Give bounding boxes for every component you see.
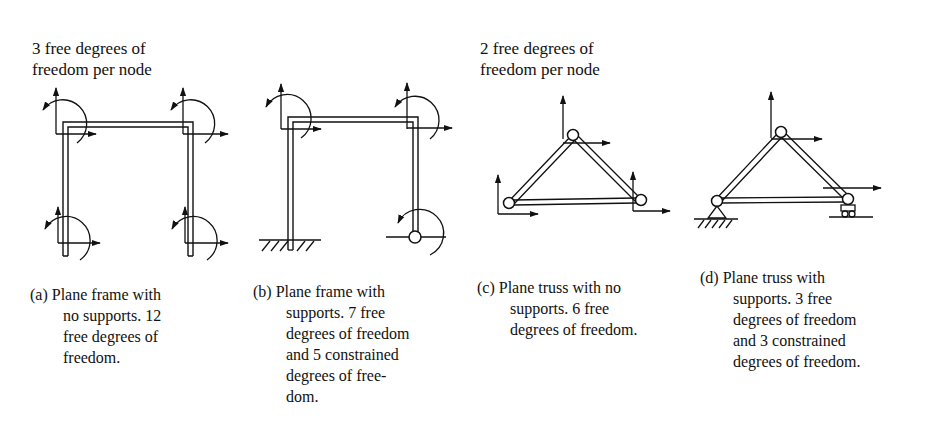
caption-d-line4: and 3 constrained (700, 330, 861, 351)
caption-c-line3: degrees of freedom. (477, 319, 638, 340)
caption-b-line5: degrees of free- (253, 365, 410, 386)
caption-b-line3: degrees of freedom (253, 323, 410, 344)
caption-c-line2: supports. 6 free (477, 298, 638, 319)
caption-c: (c) Plane truss with no supports. 6 free… (477, 277, 638, 340)
hinge-node-icon (712, 196, 723, 207)
caption-d-line2: supports. 3 free (700, 288, 861, 309)
caption-d-line3: degrees of freedom (700, 309, 861, 330)
pinned-support-icon (694, 206, 738, 228)
hinge-node-icon (504, 198, 515, 209)
dof-arrows-icon (498, 175, 538, 214)
panel-a-frame (43, 88, 228, 260)
hinge-node-icon (843, 194, 854, 205)
dof-arrows-icon (172, 207, 228, 260)
pin-support-icon (386, 231, 446, 243)
caption-a-line1: (a) Plane frame with (30, 284, 161, 305)
dof-arrows-icon (45, 207, 100, 260)
structures-diagram (0, 0, 927, 448)
dof-arrows-icon (171, 88, 228, 143)
hinge-node-icon (776, 127, 787, 138)
dof-arrows-icon (43, 88, 96, 143)
roller-support-icon (829, 205, 873, 217)
rotation-arrow-icon (398, 209, 444, 255)
caption-d: (d) Plane truss with supports. 3 free de… (700, 267, 861, 372)
panel-b-frame (259, 83, 452, 255)
caption-b-line1: (b) Plane frame with (253, 281, 410, 302)
dof-arrows-icon (395, 83, 452, 139)
caption-d-line1: (d) Plane truss with (700, 267, 861, 288)
caption-a-line2: no supports. 12 (30, 305, 161, 326)
caption-a-line4: freedom. (30, 347, 161, 368)
panel-c-truss (498, 96, 670, 214)
caption-a-line3: free degrees of (30, 326, 161, 347)
caption-b-line6: dom. (253, 386, 410, 407)
hinge-node-icon (636, 195, 647, 206)
caption-b: (b) Plane frame with supports. 7 free de… (253, 281, 410, 407)
hinge-node-icon (568, 130, 579, 141)
caption-c-line1: (c) Plane truss with no (477, 277, 638, 298)
caption-b-line2: supports. 7 free (253, 302, 410, 323)
caption-d-line5: degrees of freedom. (700, 351, 861, 372)
panel-d-truss (694, 92, 881, 228)
caption-b-line4: and 5 constrained (253, 344, 410, 365)
caption-a: (a) Plane frame with no supports. 12 fre… (30, 284, 161, 368)
